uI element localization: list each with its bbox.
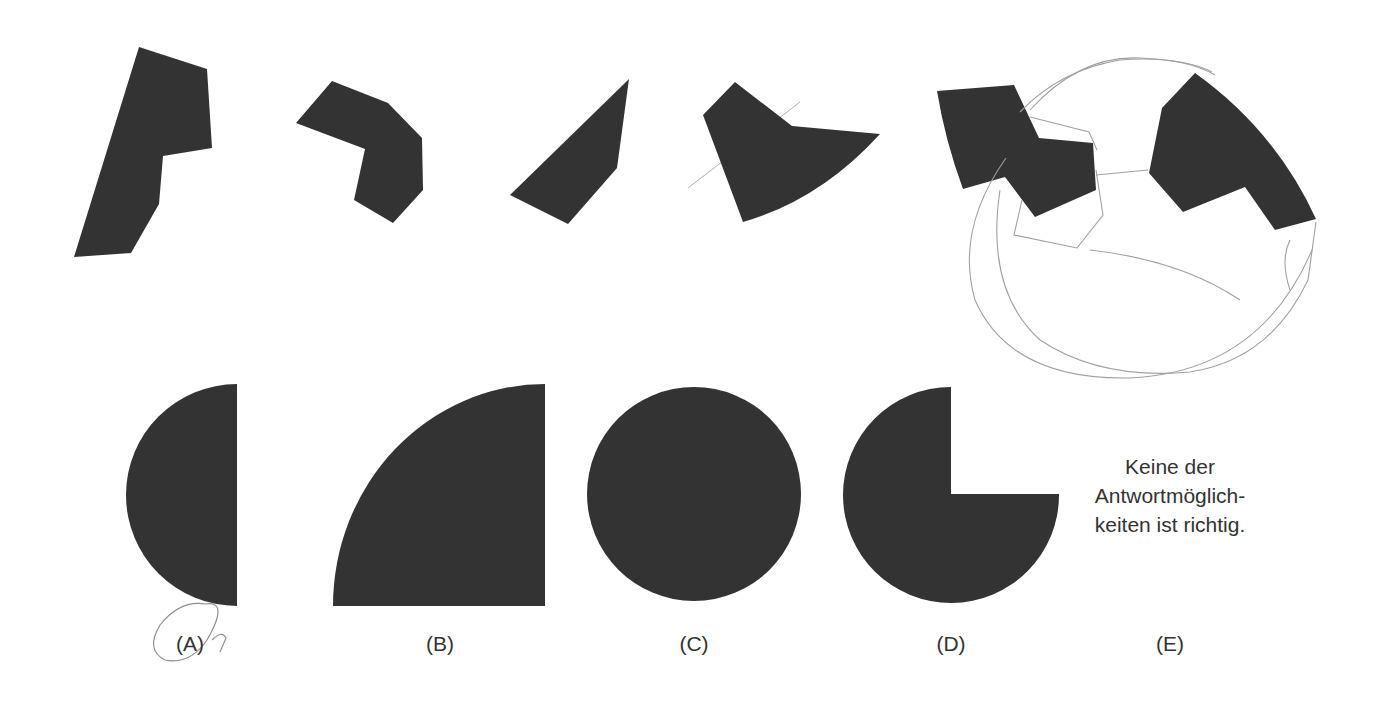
piece-5b [1149, 73, 1316, 230]
option-b-label[interactable]: (B) [426, 632, 454, 656]
option-b-quarter-disc[interactable] [333, 384, 545, 606]
answer-shapes [126, 384, 1059, 606]
piece-2 [296, 81, 423, 223]
option-c-label[interactable]: (C) [679, 632, 708, 656]
puzzle-canvas [0, 0, 1386, 713]
piece-5a [937, 85, 1096, 217]
option-e-text[interactable]: Keine der Antwortmöglich- keiten ist ric… [1080, 452, 1260, 539]
option-e-line-2: Antwortmöglich- [1080, 481, 1260, 510]
option-e-line-1: Keine der [1080, 452, 1260, 481]
option-e-line-3: keiten ist richtig. [1080, 510, 1260, 539]
piece-1 [74, 47, 212, 257]
option-c-full-disc[interactable] [587, 387, 801, 601]
option-a-half-disc[interactable] [126, 384, 237, 606]
option-d-label[interactable]: (D) [936, 632, 965, 656]
option-a-label[interactable]: (A) [176, 632, 204, 656]
puzzle-pieces [74, 47, 1316, 257]
option-e-label[interactable]: (E) [1156, 632, 1184, 656]
piece-4 [703, 82, 880, 222]
option-d-three-quarter-disc[interactable] [843, 387, 1059, 603]
piece-3 [510, 79, 629, 224]
